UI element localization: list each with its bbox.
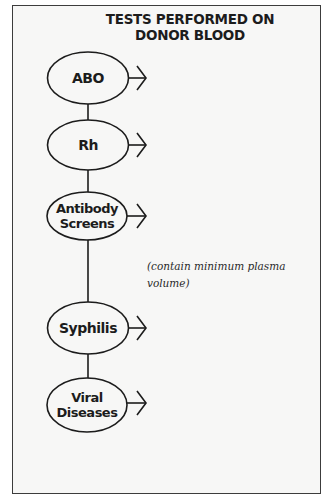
arrow-right-icon <box>127 391 146 415</box>
plasma-volume-note: (contain minimum plasma volume) <box>147 258 287 292</box>
node-syphilis-text: Syphilis <box>48 320 128 336</box>
note-line-1: (contain minimum plasma <box>147 258 287 275</box>
node-antibody-label: Antibody Screens <box>47 201 127 231</box>
node-syphilis-label: Syphilis <box>48 320 128 336</box>
node-viral-label: Viral Diseases <box>47 390 127 420</box>
node-antibody-text-1: Antibody <box>47 201 127 216</box>
arrow-right-icon <box>127 204 146 228</box>
arrow-right-icon <box>128 316 146 340</box>
arrow-right-icon <box>128 133 146 157</box>
arrow-right-icon <box>128 66 146 90</box>
node-viral-text-1: Viral <box>47 390 127 405</box>
node-antibody-text-2: Screens <box>47 216 127 231</box>
note-line-2: volume) <box>147 275 287 292</box>
node-abo-text: ABO <box>48 70 128 86</box>
node-rh-label: Rh <box>48 137 128 153</box>
node-abo-label: ABO <box>48 70 128 86</box>
node-rh-text: Rh <box>48 137 128 153</box>
node-viral-text-2: Diseases <box>47 405 127 420</box>
